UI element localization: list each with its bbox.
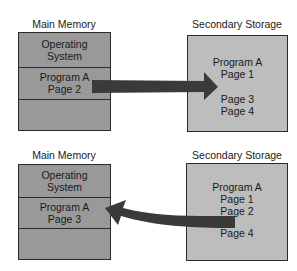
arrow-curved-left-icon	[0, 0, 297, 271]
